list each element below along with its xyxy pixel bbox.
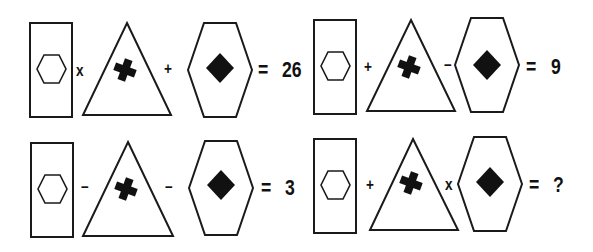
- cross-icon: [397, 169, 425, 197]
- operator-2: x: [445, 176, 453, 193]
- small-hexagon-icon: [321, 171, 350, 199]
- rectangle-hexagon-shape: [313, 138, 357, 234]
- unknown-result: ?: [553, 174, 564, 196]
- equals-sign: =: [529, 174, 539, 196]
- diamond-icon: [476, 167, 504, 197]
- shape-math-puzzle: x + = 26 +: [0, 0, 593, 252]
- equation-4: + x = ?: [0, 0, 593, 252]
- hexagon-diamond-shape: [457, 136, 523, 232]
